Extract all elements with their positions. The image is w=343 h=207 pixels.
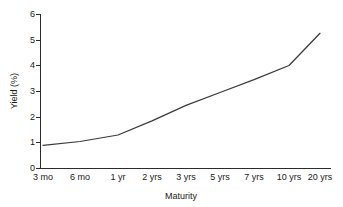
chart-canvas: Yield (%) Maturity 6 5 4 3 2 1 0 3 mo 6 … — [0, 0, 343, 207]
y-axis-title: Yield (%) — [9, 73, 19, 109]
x-axis-title: Maturity — [165, 191, 198, 201]
x-tick-label-3yrs: 3 yrs — [176, 172, 196, 182]
x-tick-label-3mo: 3 mo — [33, 172, 53, 182]
y-tick-label-4: 4 — [30, 60, 35, 70]
yield-curve-chart: Yield (%) Maturity 6 5 4 3 2 1 0 3 mo 6 … — [0, 0, 343, 207]
y-tick-label-2: 2 — [30, 112, 35, 122]
y-tick-label-1: 1 — [30, 137, 35, 147]
yield-curve-line — [43, 33, 320, 145]
x-tick-label-5yrs: 5 yrs — [210, 172, 230, 182]
y-tick-label-5: 5 — [30, 35, 35, 45]
x-tick-label-7yrs: 7 yrs — [244, 172, 264, 182]
x-tick-label-2yrs: 2 yrs — [142, 172, 162, 182]
x-tick-label-20yrs: 20 yrs — [308, 172, 333, 182]
y-tick-label-6: 6 — [30, 9, 35, 19]
y-tick-label-3: 3 — [30, 86, 35, 96]
x-tick-label-10yrs: 10 yrs — [277, 172, 302, 182]
x-tick-label-6mo: 6 mo — [70, 172, 90, 182]
x-tick-label-1yr: 1 yr — [110, 172, 125, 182]
